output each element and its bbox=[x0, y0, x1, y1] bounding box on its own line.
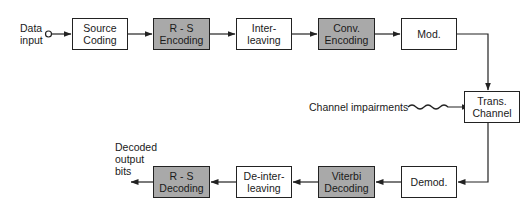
interleaving-block: Inter- leaving bbox=[236, 18, 292, 50]
viterbi-decoding-label: Viterbi Decoding bbox=[324, 170, 368, 194]
interleaving-label: Inter- leaving bbox=[247, 22, 280, 46]
rs-encoding-label: R - S Encoding bbox=[160, 22, 204, 46]
decoded-output-label: Decoded output bits bbox=[115, 141, 157, 177]
conv-encoding-block: Conv. Encoding bbox=[318, 18, 375, 50]
mod-block: Mod. bbox=[401, 18, 457, 50]
source-coding-label: Source Coding bbox=[83, 22, 116, 46]
demod-label: Demod. bbox=[411, 176, 448, 188]
rs-decoding-label: R - S Decoding bbox=[159, 170, 203, 194]
source-coding-block: Source Coding bbox=[72, 18, 128, 50]
deinterleaving-label: De-inter- leaving bbox=[244, 170, 285, 194]
mod-label: Mod. bbox=[417, 28, 440, 40]
communication-system-block-diagram: Data input Source Coding R - S Encoding … bbox=[0, 0, 531, 211]
channel-impairments-label: Channel impairments bbox=[309, 101, 408, 113]
viterbi-decoding-block: Viterbi Decoding bbox=[318, 166, 375, 198]
trans-channel-block: Trans. Channel bbox=[464, 91, 520, 123]
rs-decoding-block: R - S Decoding bbox=[153, 166, 210, 198]
deinterleaving-block: De-inter- leaving bbox=[236, 166, 292, 198]
conv-encoding-label: Conv. Encoding bbox=[325, 22, 369, 46]
trans-channel-label: Trans. Channel bbox=[472, 95, 511, 119]
data-input-label: Data input bbox=[20, 22, 43, 46]
demod-block: Demod. bbox=[401, 166, 457, 198]
rs-encoding-block: R - S Encoding bbox=[153, 18, 210, 50]
input-terminal-icon bbox=[46, 31, 52, 37]
squiggle-arrow-icon bbox=[408, 105, 469, 109]
